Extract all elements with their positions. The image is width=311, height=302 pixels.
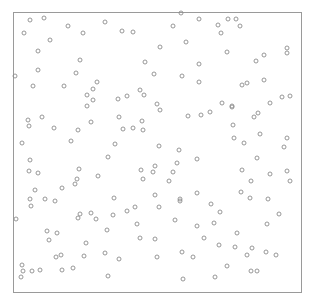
scatter-point-marker bbox=[197, 62, 201, 66]
scatter-point-marker bbox=[113, 142, 117, 146]
scatter-point-marker bbox=[30, 269, 34, 273]
scatter-point-marker bbox=[233, 245, 237, 249]
scatter-point-marker bbox=[264, 250, 268, 254]
scatter-point-marker bbox=[238, 24, 242, 28]
scatter-point-marker bbox=[40, 115, 44, 119]
scatter-point-marker bbox=[36, 171, 40, 175]
scatter-point-marker bbox=[285, 51, 289, 55]
scatter-point-marker bbox=[141, 177, 145, 181]
scatter-point-marker bbox=[91, 87, 95, 91]
scatter-point-marker bbox=[242, 141, 246, 145]
scatter-point-marker bbox=[135, 222, 139, 226]
scatter-point-marker bbox=[239, 190, 243, 194]
scatter-points-layer bbox=[0, 0, 311, 302]
scatter-point-marker bbox=[255, 156, 259, 160]
scatter-point-marker bbox=[28, 18, 32, 22]
scatter-point-marker bbox=[77, 167, 81, 171]
scatter-point-marker bbox=[22, 31, 26, 35]
scatter-point-marker bbox=[138, 88, 142, 92]
scatter-point-marker bbox=[240, 83, 244, 87]
scatter-point-marker bbox=[59, 253, 63, 257]
scatter-point-marker bbox=[66, 24, 70, 28]
scatter-point-marker bbox=[186, 114, 190, 118]
scatter-point-marker bbox=[121, 127, 125, 131]
scatter-point-marker bbox=[249, 269, 253, 273]
scatter-point-marker bbox=[265, 222, 269, 226]
scatter-point-marker bbox=[285, 136, 289, 140]
scatter-point-marker bbox=[157, 205, 161, 209]
scatter-point-marker bbox=[184, 40, 188, 44]
scatter-point-marker bbox=[85, 93, 89, 97]
scatter-point-marker bbox=[141, 128, 145, 132]
scatter-point-marker bbox=[85, 104, 89, 108]
scatter-point-marker bbox=[219, 31, 223, 35]
scatter-point-marker bbox=[212, 221, 216, 225]
scatter-point-marker bbox=[288, 94, 292, 98]
scatter-point-marker bbox=[158, 45, 162, 49]
scatter-point-marker bbox=[105, 228, 109, 232]
scatter-point-marker bbox=[140, 119, 144, 123]
scatter-point-marker bbox=[249, 179, 253, 183]
scatter-point-marker bbox=[217, 243, 221, 247]
scatter-point-marker bbox=[89, 120, 93, 124]
scatter-point-marker bbox=[245, 253, 249, 257]
scatter-point-marker bbox=[94, 217, 98, 221]
scatter-point-marker bbox=[285, 169, 289, 173]
scatter-point-marker bbox=[235, 231, 239, 235]
scatter-point-marker bbox=[248, 196, 252, 200]
scatter-point-marker bbox=[266, 197, 270, 201]
scatter-point-marker bbox=[234, 17, 238, 21]
scatter-point-marker bbox=[13, 74, 17, 78]
scatter-point-marker bbox=[45, 229, 49, 233]
scatter-point-marker bbox=[43, 197, 47, 201]
scatter-point-marker bbox=[209, 202, 213, 206]
scatter-point-marker bbox=[181, 277, 185, 281]
scatter-point-marker bbox=[180, 250, 184, 254]
scatter-point-marker bbox=[171, 24, 175, 28]
scatter-point-marker bbox=[55, 231, 59, 235]
scatter-point-marker bbox=[21, 269, 25, 273]
scatter-point-marker bbox=[73, 182, 77, 186]
scatter-point-marker bbox=[258, 132, 262, 136]
scatter-point-marker bbox=[96, 174, 100, 178]
scatter-point-marker bbox=[103, 251, 107, 255]
scatter-point-marker bbox=[151, 170, 155, 174]
scatter-point-marker bbox=[53, 199, 57, 203]
scatter-point-marker bbox=[116, 97, 120, 101]
scatter-point-marker bbox=[33, 188, 37, 192]
scatter-point-marker bbox=[95, 80, 99, 84]
scatter-point-marker bbox=[48, 38, 52, 42]
scatter-point-marker bbox=[138, 236, 142, 240]
scatter-point-marker bbox=[277, 212, 281, 216]
scatter-point-marker bbox=[28, 158, 32, 162]
scatter-point-marker bbox=[71, 266, 75, 270]
scatter-point-marker bbox=[36, 68, 40, 72]
scatter-point-marker bbox=[157, 144, 161, 148]
scatter-point-marker bbox=[52, 126, 56, 130]
scatter-point-marker bbox=[62, 84, 66, 88]
scatter-point-marker bbox=[155, 102, 159, 106]
scatter-point-marker bbox=[262, 53, 266, 57]
scatter-point-marker bbox=[112, 196, 116, 200]
scatter-point-marker bbox=[268, 172, 272, 176]
scatter-point-marker bbox=[195, 191, 199, 195]
scatter-point-marker bbox=[106, 274, 110, 278]
scatter-point-marker bbox=[125, 94, 129, 98]
scatter-point-marker bbox=[38, 268, 42, 272]
scatter-point-marker bbox=[78, 58, 82, 62]
scatter-point-marker bbox=[117, 257, 121, 261]
scatter-point-marker bbox=[288, 179, 292, 183]
scatter-point-marker bbox=[231, 123, 235, 127]
scatter-point-marker bbox=[153, 237, 157, 241]
scatter-point-marker bbox=[143, 60, 147, 64]
scatter-point-marker bbox=[82, 254, 86, 258]
scatter-point-marker bbox=[120, 29, 124, 33]
scatter-point-marker bbox=[14, 217, 18, 221]
scatter-point-marker bbox=[225, 50, 229, 54]
scatter-point-marker bbox=[285, 46, 289, 50]
scatter-point-marker bbox=[158, 108, 162, 112]
scatter-point-marker bbox=[91, 98, 95, 102]
scatter-point-marker bbox=[54, 255, 58, 259]
scatter-point-marker bbox=[42, 16, 46, 20]
scatter-point-marker bbox=[29, 204, 33, 208]
